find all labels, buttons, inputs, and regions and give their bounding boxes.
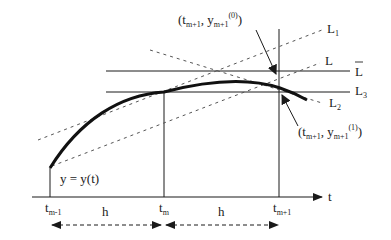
solution-curve bbox=[50, 82, 307, 168]
predictor-point-label: (tm+1, ym+1(0)) bbox=[178, 11, 242, 29]
label-L1: L1 bbox=[327, 21, 339, 38]
tick-label-tm-1: tm-1 bbox=[45, 200, 62, 217]
step-label-h-1: h bbox=[102, 204, 109, 219]
curve-label: y = y(t) bbox=[60, 171, 99, 186]
label-L3: L3 bbox=[355, 83, 367, 100]
tick-label-tm: tm bbox=[159, 200, 170, 217]
predictor-pointer-arrow bbox=[256, 30, 276, 74]
tick-label-tm+1: tm+1 bbox=[273, 200, 291, 217]
diagram-svg: t y = y(t) tm-1 tm tm+1 h h L1 L L L3 L2… bbox=[0, 0, 391, 240]
step-label-h-2: h bbox=[218, 204, 225, 219]
diagram-canvas: t y = y(t) tm-1 tm tm+1 h h L1 L L L3 L2… bbox=[0, 0, 391, 240]
corrector-pointer-arrow bbox=[282, 95, 298, 126]
t-axis-label: t bbox=[328, 189, 332, 204]
label-L: L bbox=[325, 53, 333, 68]
corrector-point-label: (tm+1, ym+1(1)) bbox=[298, 123, 362, 141]
label-Lbar: L bbox=[355, 62, 363, 79]
label-L2: L2 bbox=[329, 95, 341, 112]
line-L bbox=[52, 63, 320, 166]
svg-text:L: L bbox=[355, 64, 363, 79]
